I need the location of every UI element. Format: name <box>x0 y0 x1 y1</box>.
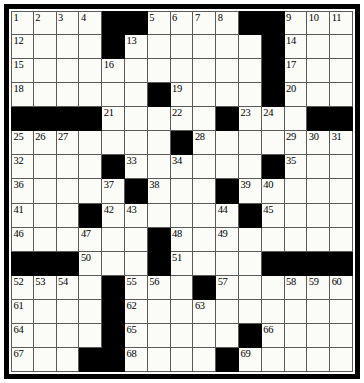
grid-cell[interactable] <box>125 228 148 252</box>
grid-cell[interactable] <box>307 59 330 83</box>
grid-cell[interactable] <box>148 107 171 131</box>
grid-cell[interactable] <box>34 155 57 179</box>
grid-cell[interactable]: 65 <box>125 324 148 348</box>
grid-cell[interactable]: 16 <box>102 59 125 83</box>
grid-cell[interactable] <box>216 252 239 276</box>
grid-cell[interactable] <box>330 348 353 372</box>
grid-cell[interactable] <box>285 107 308 131</box>
grid-cell[interactable] <box>285 204 308 228</box>
grid-cell[interactable]: 47 <box>79 228 102 252</box>
grid-cell[interactable]: 32 <box>11 155 34 179</box>
grid-cell[interactable] <box>57 228 80 252</box>
grid-cell[interactable]: 34 <box>171 155 194 179</box>
grid-cell[interactable] <box>102 228 125 252</box>
grid-cell[interactable]: 55 <box>125 276 148 300</box>
grid-cell[interactable]: 35 <box>285 155 308 179</box>
grid-cell[interactable]: 2 <box>34 11 57 35</box>
grid-cell[interactable] <box>79 59 102 83</box>
grid-cell[interactable]: 44 <box>216 204 239 228</box>
grid-cell[interactable]: 21 <box>102 107 125 131</box>
grid-cell[interactable]: 57 <box>216 276 239 300</box>
grid-cell[interactable]: 69 <box>239 348 262 372</box>
grid-cell[interactable] <box>193 107 216 131</box>
grid-cell[interactable]: 8 <box>216 11 239 35</box>
grid-cell[interactable] <box>148 204 171 228</box>
grid-cell[interactable]: 43 <box>125 204 148 228</box>
grid-cell[interactable]: 52 <box>11 276 34 300</box>
grid-cell[interactable] <box>285 228 308 252</box>
grid-cell[interactable] <box>171 204 194 228</box>
grid-cell[interactable]: 30 <box>307 131 330 155</box>
grid-cell[interactable] <box>34 83 57 107</box>
grid-cell[interactable]: 54 <box>57 276 80 300</box>
grid-cell[interactable]: 25 <box>11 131 34 155</box>
grid-cell[interactable]: 20 <box>285 83 308 107</box>
grid-cell[interactable]: 48 <box>171 228 194 252</box>
grid-cell[interactable]: 53 <box>34 276 57 300</box>
grid-cell[interactable]: 33 <box>125 155 148 179</box>
grid-cell[interactable] <box>216 324 239 348</box>
grid-cell[interactable]: 12 <box>11 35 34 59</box>
grid-cell[interactable] <box>148 155 171 179</box>
grid-cell[interactable] <box>330 59 353 83</box>
grid-cell[interactable] <box>307 324 330 348</box>
grid-cell[interactable] <box>148 324 171 348</box>
grid-cell[interactable] <box>330 300 353 324</box>
grid-cell[interactable] <box>262 131 285 155</box>
grid-cell[interactable] <box>285 324 308 348</box>
grid-cell[interactable]: 36 <box>11 179 34 203</box>
grid-cell[interactable] <box>307 300 330 324</box>
grid-cell[interactable] <box>193 155 216 179</box>
grid-cell[interactable]: 66 <box>262 324 285 348</box>
grid-cell[interactable] <box>171 59 194 83</box>
grid-cell[interactable] <box>216 300 239 324</box>
grid-cell[interactable] <box>262 276 285 300</box>
grid-cell[interactable] <box>330 179 353 203</box>
grid-cell[interactable] <box>193 252 216 276</box>
grid-cell[interactable]: 6 <box>171 11 194 35</box>
grid-cell[interactable] <box>34 179 57 203</box>
grid-cell[interactable]: 26 <box>34 131 57 155</box>
grid-cell[interactable] <box>307 228 330 252</box>
grid-cell[interactable] <box>57 204 80 228</box>
grid-cell[interactable] <box>125 59 148 83</box>
grid-cell[interactable] <box>239 276 262 300</box>
grid-cell[interactable] <box>79 83 102 107</box>
grid-cell[interactable]: 63 <box>193 300 216 324</box>
grid-cell[interactable] <box>57 179 80 203</box>
grid-cell[interactable]: 27 <box>57 131 80 155</box>
grid-cell[interactable] <box>216 59 239 83</box>
grid-cell[interactable]: 46 <box>11 228 34 252</box>
grid-cell[interactable] <box>307 204 330 228</box>
grid-cell[interactable] <box>171 300 194 324</box>
grid-cell[interactable] <box>193 83 216 107</box>
grid-cell[interactable] <box>34 228 57 252</box>
grid-cell[interactable] <box>34 35 57 59</box>
grid-cell[interactable]: 15 <box>11 59 34 83</box>
grid-cell[interactable] <box>57 348 80 372</box>
grid-cell[interactable]: 49 <box>216 228 239 252</box>
grid-cell[interactable]: 58 <box>285 276 308 300</box>
grid-cell[interactable]: 1 <box>11 11 34 35</box>
grid-cell[interactable]: 41 <box>11 204 34 228</box>
grid-cell[interactable]: 62 <box>125 300 148 324</box>
grid-cell[interactable]: 7 <box>193 11 216 35</box>
grid-cell[interactable] <box>34 324 57 348</box>
grid-cell[interactable]: 60 <box>330 276 353 300</box>
grid-cell[interactable] <box>171 35 194 59</box>
grid-cell[interactable] <box>148 348 171 372</box>
grid-cell[interactable] <box>239 155 262 179</box>
grid-cell[interactable] <box>57 83 80 107</box>
grid-cell[interactable] <box>171 324 194 348</box>
grid-cell[interactable] <box>193 204 216 228</box>
grid-cell[interactable] <box>193 35 216 59</box>
grid-cell[interactable] <box>307 35 330 59</box>
grid-cell[interactable]: 24 <box>262 107 285 131</box>
grid-cell[interactable] <box>285 179 308 203</box>
grid-cell[interactable] <box>262 348 285 372</box>
grid-cell[interactable]: 19 <box>171 83 194 107</box>
grid-cell[interactable] <box>34 204 57 228</box>
grid-cell[interactable] <box>307 348 330 372</box>
grid-cell[interactable] <box>330 155 353 179</box>
grid-cell[interactable]: 64 <box>11 324 34 348</box>
